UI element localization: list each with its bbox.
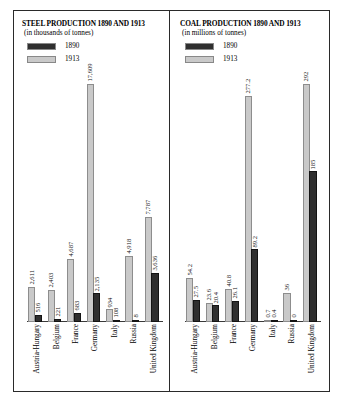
bar-value-label: 8: [132, 315, 139, 318]
bar-1890: 0: [290, 320, 297, 322]
bar-1890: 683: [74, 313, 81, 322]
category-label-wrap: Austria-Hungary: [27, 322, 46, 392]
bar-value-label: 4,687: [67, 242, 74, 257]
bar-value-label: 36: [284, 284, 291, 291]
bar-1890: 3,636: [151, 273, 158, 322]
category-label-wrap: France: [224, 322, 243, 392]
bar-value-label: 26.1: [232, 287, 239, 299]
bar-value-label: 108: [113, 308, 120, 318]
steel-legend: 1890 1913: [27, 41, 79, 67]
category-label-wrap: Belgium: [47, 322, 66, 392]
bar-value-label: 292: [303, 72, 310, 82]
bar-1890: 20.4: [212, 305, 219, 322]
steel-title: STEEL PRODUCTION 1890 AND 1913: [22, 19, 167, 28]
bar-value-label: 3,636: [152, 256, 159, 271]
steel-subtitle: (in thousands of tonnes): [22, 28, 167, 38]
bar-value-label: 17,609: [87, 64, 94, 82]
bar-1890: 221: [54, 319, 61, 322]
legend-swatch-1913: [185, 56, 214, 63]
legend-item-1913: 1913: [185, 54, 237, 64]
bar-1890: 8: [132, 320, 139, 322]
bar-value-label: 516: [35, 303, 42, 313]
coal-heading: COAL PRODUCTION 1890 AND 1913 (in millio…: [180, 19, 325, 38]
legend-label-1890: 1890: [65, 42, 79, 50]
bar-value-label: 89.2: [251, 236, 258, 248]
category-label-wrap: United Kingdom: [302, 322, 321, 392]
bar-value-label: 185: [310, 159, 317, 169]
bar-1890: 185: [309, 171, 316, 322]
bar-value-label: 0.4: [271, 310, 278, 318]
bar-value-label: 0: [290, 315, 297, 318]
bar-1890: 26.1: [232, 301, 239, 322]
bar-value-label: 2,611: [29, 270, 36, 285]
category-label-wrap: Germany: [86, 322, 105, 392]
bar-value-label: 683: [74, 301, 81, 311]
coal-legend: 1890 1913: [185, 41, 237, 67]
legend-label-1913: 1913: [65, 55, 79, 63]
bar-value-label: 4,918: [126, 239, 133, 254]
bar-value-label: 277.2: [245, 79, 252, 94]
category-label-wrap: Russia: [124, 322, 143, 392]
category-label-wrap: Italy: [263, 322, 282, 392]
category-label-wrap: Belgium: [205, 322, 224, 392]
category-label-wrap: Austria-Hungary: [185, 322, 204, 392]
legend-label-1913: 1913: [223, 55, 237, 63]
legend-swatch-1890: [27, 43, 56, 50]
bar-1890: 2,135: [93, 293, 100, 322]
legend-swatch-1890: [185, 43, 214, 50]
coal-plot-area: 54.227.5Austria-Hungary23.620.4Belgium40…: [185, 72, 321, 322]
category-label-wrap: France: [66, 322, 85, 392]
category-label-wrap: Italy: [105, 322, 124, 392]
panel-steel-production: STEEL PRODUCTION 1890 AND 1913 (in thous…: [13, 10, 171, 392]
bar-1913: 4,918: [125, 256, 132, 322]
category-label-wrap: United Kingdom: [144, 322, 163, 392]
bar-1890: 27.5: [193, 300, 200, 322]
chart-page: STEEL PRODUCTION 1890 AND 1913 (in thous…: [0, 0, 345, 409]
legend-item-1913: 1913: [27, 54, 79, 64]
bar-value-label: 934: [106, 298, 113, 308]
steel-heading: STEEL PRODUCTION 1890 AND 1913 (in thous…: [22, 19, 167, 38]
panel-coal-production: COAL PRODUCTION 1890 AND 1913 (in millio…: [171, 10, 329, 392]
coal-title: COAL PRODUCTION 1890 AND 1913: [180, 19, 325, 28]
bar-1890: 0.4: [271, 320, 278, 322]
legend-item-1890: 1890: [185, 41, 237, 51]
bar-value-label: 54.2: [187, 264, 194, 276]
category-label-wrap: Germany: [244, 322, 263, 392]
bar-value-label: 221: [55, 307, 62, 317]
bar-value-label: 7,787: [145, 200, 152, 215]
legend-item-1890: 1890: [27, 41, 79, 51]
bar-value-label: 27.5: [193, 286, 200, 298]
bar-value-label: 20.4: [213, 292, 220, 304]
bar-1890: 89.2: [251, 249, 258, 322]
coal-subtitle: (in millions of tonnes): [180, 28, 325, 38]
bar-value-label: 40.8: [225, 275, 232, 287]
bar-1890: 108: [113, 320, 120, 322]
bar-value-label: 2,403: [48, 273, 55, 288]
category-label-wrap: Russia: [282, 322, 301, 392]
bar-value-label: 2,135: [93, 276, 100, 291]
bar-1890: 516: [35, 315, 42, 322]
legend-swatch-1913: [27, 56, 56, 63]
bar-1913: 36: [283, 293, 290, 322]
legend-label-1890: 1890: [223, 42, 237, 50]
steel-plot-area: 2,611516Austria-Hungary2,403221Belgium4,…: [27, 72, 163, 322]
